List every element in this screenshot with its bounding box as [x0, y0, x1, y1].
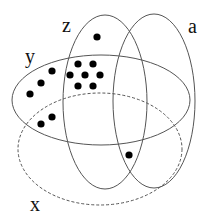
set-label-a: a	[188, 15, 197, 37]
data-point	[48, 113, 55, 120]
set-label-z: z	[62, 14, 71, 36]
data-point	[37, 79, 44, 86]
data-point	[37, 120, 44, 127]
set-z-ellipse	[63, 15, 147, 189]
data-point	[74, 82, 81, 89]
data-point	[89, 82, 96, 89]
data-point	[26, 90, 33, 97]
set-ellipses	[12, 14, 195, 205]
set-y-ellipse	[12, 55, 190, 145]
data-point	[66, 71, 73, 78]
data-point	[81, 71, 88, 78]
set-label-y: y	[25, 45, 35, 68]
data-point	[96, 71, 103, 78]
set-a-ellipse	[113, 14, 195, 188]
data-point	[48, 67, 55, 74]
data-point	[125, 151, 132, 158]
data-point	[93, 33, 100, 40]
data-point	[89, 60, 96, 67]
set-label-x: x	[30, 193, 40, 214]
venn-diagram: z a y x	[0, 0, 209, 214]
data-point	[74, 60, 81, 67]
